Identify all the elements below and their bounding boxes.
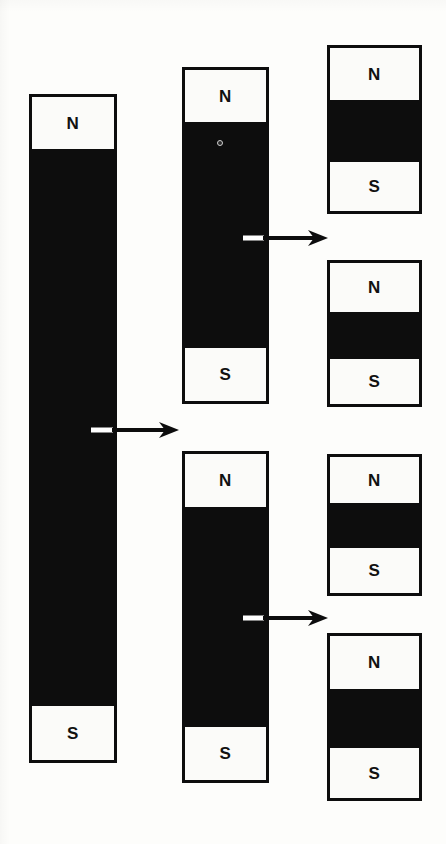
south-pole-face: S [185,348,266,401]
magnet-quarter-2: N S [327,260,422,407]
north-pole-label: N [219,472,232,489]
south-pole-label: S [369,373,381,390]
split-arrow-2 [243,227,328,249]
north-pole-face: N [330,48,419,100]
magnet-body [330,312,419,359]
south-pole-face: S [330,162,419,211]
magnet-quarter-1: N S [327,45,422,214]
north-pole-label: N [368,472,381,489]
north-pole-label: N [368,66,381,83]
split-arrow-1 [91,419,179,441]
magnet-subdivision-figure: N S N S N S N S [0,0,446,844]
magnet-body [330,100,419,162]
south-pole-face: S [185,727,266,780]
north-pole-face: N [330,636,419,689]
south-pole-face: S [32,706,114,760]
south-pole-label: S [220,745,232,762]
south-pole-label: S [369,178,381,195]
north-pole-face: N [185,70,266,122]
north-pole-label: N [219,88,232,105]
south-pole-label: S [67,725,79,742]
north-pole-label: N [368,279,381,296]
south-pole-label: S [220,366,232,383]
south-pole-label: S [369,562,381,579]
south-pole-face: S [330,359,419,404]
north-pole-label: N [368,654,381,671]
south-pole-label: S [369,765,381,782]
north-pole-face: N [330,457,419,503]
north-pole-face: N [330,263,419,312]
north-pole-face: N [185,454,266,507]
north-pole-label: N [67,115,80,132]
magnet-body [330,689,419,748]
magnet-quarter-3: N S [327,454,422,596]
split-arrow-3 [243,607,328,629]
south-pole-face: S [330,548,419,593]
north-pole-face: N [32,97,114,149]
south-pole-face: S [330,748,419,798]
scan-speck-artifact [217,140,223,146]
magnet-body [330,503,419,548]
magnet-quarter-4: N S [327,633,422,801]
